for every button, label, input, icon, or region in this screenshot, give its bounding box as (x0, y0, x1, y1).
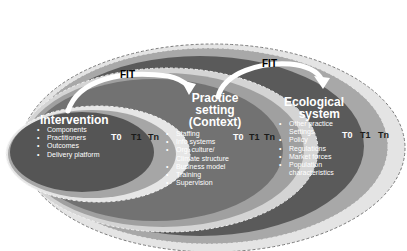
fit-label-1: FIT (120, 69, 135, 80)
list-item: •Delivery platform (37, 151, 100, 159)
ecological-title: Ecological system (284, 96, 340, 120)
intervention-title: Intervention (40, 114, 109, 126)
intervention-t1-label: T1 (131, 132, 142, 142)
practice-title: Practice setting (Context) (183, 92, 247, 128)
list-item: •Market forces (279, 153, 334, 161)
list-item: •Business model (166, 163, 229, 171)
practice-t1-label: T1 (249, 132, 260, 142)
list-item: •Outcomes (37, 142, 100, 150)
intervention-tn-label: Tn (148, 132, 159, 142)
fit-label-2: FIT (262, 58, 277, 69)
practice-list: •Staffing •Info systems •Org. culture/ C… (166, 130, 229, 187)
intervention-t0-label: T0 (111, 132, 122, 142)
list-item: •Training (166, 171, 229, 179)
list-item: •Staffing (166, 130, 229, 138)
list-item: •Components (37, 126, 100, 134)
practice-tn-label: Tn (264, 132, 275, 142)
list-item: •Policy (279, 136, 334, 144)
list-item: •Practitioners (37, 134, 100, 142)
ecological-t1-label: T1 (360, 130, 371, 140)
list-item: •Population (279, 161, 334, 169)
list-item: •Org. culture/ (166, 146, 229, 154)
list-item: •Info systems (166, 138, 229, 146)
practice-t0-label: T0 (233, 132, 244, 142)
intervention-list: •Components •Practitioners •Outcomes •De… (37, 126, 100, 159)
list-item: •Other practice (279, 120, 334, 128)
list-item: •Regulations (279, 145, 334, 153)
ecological-tn-label: Tn (378, 130, 389, 140)
ecological-t0-label: T0 (342, 130, 353, 140)
ecological-list: •Other practice Settings •Policy •Regula… (279, 120, 334, 177)
list-item: characteristics (279, 169, 334, 177)
list-item: •Supervision (166, 179, 229, 187)
list-item: Settings (279, 128, 334, 136)
list-item: Climate structure (166, 155, 229, 163)
